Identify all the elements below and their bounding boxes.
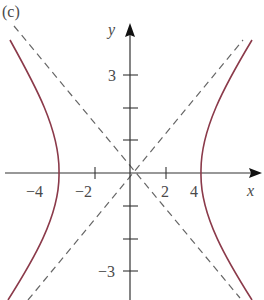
y-axis-label: y bbox=[106, 21, 116, 39]
panel-label: (c) bbox=[2, 3, 20, 21]
asymptote-positive-slope bbox=[28, 40, 243, 300]
y-axis-arrow-icon bbox=[125, 23, 135, 37]
hyperbola-left-branch bbox=[8, 40, 59, 300]
x-tick-label-2: 2 bbox=[161, 183, 169, 200]
x-tick-label-neg4: −4 bbox=[26, 183, 43, 200]
x-tick-label-neg2: −2 bbox=[75, 183, 92, 200]
y-tick-label-3: 3 bbox=[108, 67, 116, 84]
hyperbola-diagram: (c) y x −4 −2 2 4 3 −3 bbox=[0, 0, 264, 300]
x-tick-label-4: 4 bbox=[190, 183, 198, 200]
asymptote-negative-slope bbox=[14, 26, 240, 298]
x-axis-label: x bbox=[246, 182, 254, 199]
y-tick-label-neg3: −3 bbox=[98, 263, 115, 280]
